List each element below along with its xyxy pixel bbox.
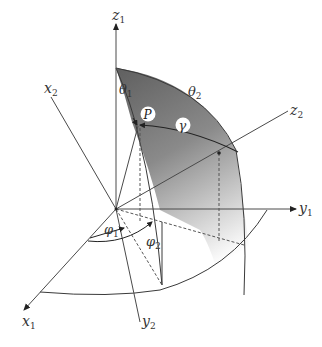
coordinate-frames-diagram: z1 y1 x1 x2 y2 z2 θ1 θ2 P γ φ1 φ2	[0, 0, 322, 347]
phi2-arc	[88, 222, 152, 242]
point-p-label: P	[143, 108, 153, 122]
phi1-label: φ1	[104, 222, 119, 239]
x1-label: x1	[22, 313, 36, 331]
z2-label: z2	[289, 102, 303, 120]
origin-to-p-line	[116, 126, 138, 209]
origin-point	[115, 208, 118, 211]
theta2-label: θ2	[188, 84, 202, 101]
gamma-label: γ	[179, 118, 187, 133]
z1-label: z1	[111, 7, 125, 25]
x2-label: x2	[44, 80, 58, 98]
y2-axis	[116, 209, 140, 322]
phi2-label: φ2	[146, 234, 161, 251]
y1-label: y1	[298, 200, 313, 218]
spherical-surface-patch	[116, 68, 256, 295]
x2-axis	[51, 97, 116, 209]
z2-surface-point	[217, 151, 221, 155]
diagram-canvas: z1 y1 x1 x2 y2 z2 θ1 θ2 P γ φ1 φ2	[0, 0, 322, 347]
y2-label: y2	[141, 313, 156, 331]
